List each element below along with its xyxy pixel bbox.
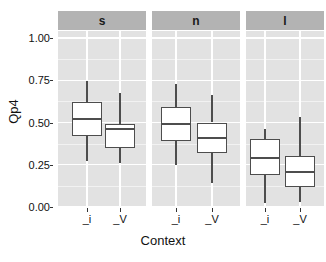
boxplot-whisker-upper bbox=[299, 117, 300, 156]
y-tick-mark bbox=[50, 80, 53, 81]
y-tick-label: 0.50 bbox=[14, 118, 50, 128]
gridline-horizontal-minor bbox=[152, 101, 240, 102]
facet-strip-label: s bbox=[99, 14, 106, 28]
facet-panel-0 bbox=[58, 31, 146, 208]
x-tick-label: _i bbox=[250, 213, 280, 225]
gridline-horizontal-minor bbox=[152, 186, 240, 187]
gridline-horizontal bbox=[58, 80, 146, 81]
facet-strip-label: l bbox=[283, 14, 286, 28]
gridline-horizontal-minor bbox=[246, 101, 324, 102]
boxplot-whisker-upper bbox=[264, 129, 265, 139]
y-tick-mark bbox=[50, 123, 53, 124]
y-axis-ticks: 1.00 0.75 0.50 0.25 0.00 bbox=[12, 0, 50, 262]
boxplot-median-line bbox=[197, 137, 227, 139]
facet-strip-0: s bbox=[58, 11, 146, 30]
boxplot-whisker-lower bbox=[175, 141, 176, 165]
gridline-horizontal bbox=[58, 164, 146, 165]
boxplot-whisker-lower bbox=[264, 175, 265, 203]
boxplot-whisker-lower bbox=[86, 136, 87, 161]
x-tick-label: _i bbox=[161, 213, 191, 225]
gridline-horizontal bbox=[246, 122, 324, 123]
boxplot-chart: Qp4 1.00 0.75 0.50 0.25 0.00 s n l _i _V… bbox=[0, 0, 326, 262]
gridline-horizontal bbox=[246, 206, 324, 207]
boxplot-median-line bbox=[285, 171, 315, 173]
facet-strip-label: n bbox=[192, 14, 199, 28]
facet-panel-1 bbox=[152, 31, 240, 208]
gridline-horizontal-minor bbox=[58, 59, 146, 60]
x-tick-mark bbox=[120, 208, 121, 212]
y-tick-label: 0.00 bbox=[14, 202, 50, 212]
facet-panel-2 bbox=[246, 31, 324, 208]
y-tick-label: 0.25 bbox=[14, 160, 50, 170]
boxplot-median-line bbox=[250, 157, 280, 159]
gridline-horizontal bbox=[152, 37, 240, 38]
y-tick-mark bbox=[50, 207, 53, 208]
y-tick-label: 1.00 bbox=[14, 33, 50, 43]
x-tick-mark bbox=[265, 208, 266, 212]
boxplot-median-line bbox=[161, 123, 191, 125]
gridline-horizontal bbox=[58, 37, 146, 38]
boxplot-median-line bbox=[105, 128, 135, 130]
gridline-horizontal bbox=[246, 37, 324, 38]
x-tick-mark bbox=[176, 208, 177, 212]
y-tick-mark bbox=[50, 38, 53, 39]
boxplot-whisker-upper bbox=[175, 84, 176, 108]
gridline-horizontal bbox=[246, 80, 324, 81]
boxplot-whisker-upper bbox=[119, 93, 120, 124]
x-tick-mark bbox=[212, 208, 213, 212]
boxplot-whisker-lower bbox=[119, 148, 120, 163]
boxplot-whisker-upper bbox=[86, 81, 87, 102]
facet-strip-2: l bbox=[246, 11, 324, 30]
x-tick-mark bbox=[87, 208, 88, 212]
boxplot-median-line bbox=[72, 118, 102, 120]
y-tick-label: 0.75 bbox=[14, 75, 50, 85]
gridline-horizontal bbox=[152, 80, 240, 81]
y-tick-mark bbox=[50, 165, 53, 166]
x-tick-label: _i bbox=[72, 213, 102, 225]
x-tick-label: _V bbox=[105, 213, 135, 225]
x-axis-title: Context bbox=[0, 233, 326, 248]
gridline-horizontal-minor bbox=[58, 186, 146, 187]
x-tick-label: _V bbox=[285, 213, 315, 225]
x-tick-label: _V bbox=[197, 213, 227, 225]
boxplot-whisker-lower bbox=[299, 187, 300, 202]
gridline-horizontal-minor bbox=[246, 59, 324, 60]
gridline-horizontal bbox=[152, 206, 240, 207]
boxplot-whisker-lower bbox=[211, 153, 212, 183]
gridline-horizontal-minor bbox=[152, 59, 240, 60]
x-tick-mark bbox=[300, 208, 301, 212]
facet-strip-1: n bbox=[152, 11, 240, 30]
boxplot-whisker-upper bbox=[211, 95, 212, 122]
gridline-horizontal bbox=[152, 164, 240, 165]
gridline-horizontal bbox=[58, 206, 146, 207]
